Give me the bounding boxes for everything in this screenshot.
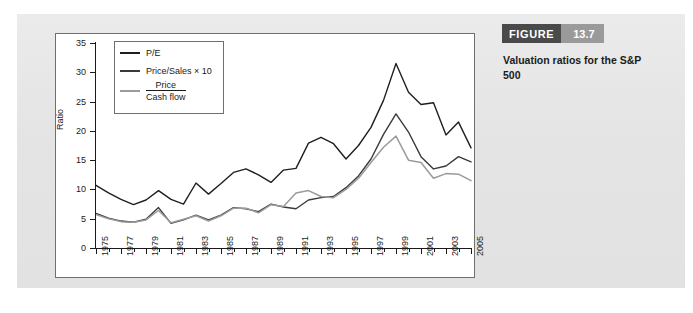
x-tick [446,249,447,254]
x-tick [396,249,397,254]
figure-caption: Valuation ratios for the S&P 500 [503,53,653,83]
y-tick-label: 35 [56,39,86,48]
x-tick-label: 1995 [350,236,360,256]
x-tick-label: 1977 [125,236,135,256]
y-tick-label: 30 [56,68,86,77]
x-tick-label: 1979 [150,236,160,256]
y-tick-label: 25 [56,97,86,106]
y-tick-label: 15 [56,156,86,165]
x-tick-label: 1975 [100,236,110,256]
x-tick [271,249,272,254]
y-tick [90,43,95,44]
figure-badge: FIGURE 13.7 [502,24,604,43]
x-tick [96,249,97,254]
legend-fraction-numerator: Price [146,80,186,91]
y-axis-line [95,42,96,249]
y-tick [90,189,95,190]
y-tick [90,219,95,220]
x-tick-label: 2001 [425,236,435,256]
x-tick [121,249,122,254]
legend-item-price-sales: Price/Sales × 10 [120,64,212,78]
x-tick-label: 1989 [275,236,285,256]
x-tick [421,249,422,254]
chart-legend: P/E Price/Sales × 10 Price Cash flow [114,41,224,114]
y-tick-label: 5 [56,214,86,223]
x-tick [146,249,147,254]
x-tick-label: 2003 [450,236,460,256]
y-tick-label: 20 [56,126,86,135]
figure-badge-number: 13.7 [561,24,603,43]
x-tick [296,249,297,254]
legend-item-pe: P/E [120,46,161,60]
chart-card: Ratio 0510152025303519751977197919811983… [55,33,475,278]
x-tick [471,249,472,254]
legend-label-pe: P/E [146,48,161,58]
x-tick-label: 1983 [200,236,210,256]
x-tick-label: 1981 [175,236,185,256]
legend-swatch-pe [120,52,140,54]
x-tick [246,249,247,254]
y-tick-label: 0 [56,244,86,253]
legend-fraction-denominator: Cash flow [146,91,186,102]
x-tick-label: 1987 [250,236,260,256]
x-tick-label: 1993 [325,236,335,256]
legend-label-price-sales: Price/Sales × 10 [146,66,212,76]
legend-swatch-price-cashflow [120,90,140,92]
y-tick [90,102,95,103]
legend-fraction: Price Cash flow [146,80,186,102]
legend-swatch-price-sales [120,70,140,72]
x-tick [346,249,347,254]
legend-item-price-cashflow: Price Cash flow [120,84,186,98]
x-tick-label: 1991 [300,236,310,256]
y-tick [90,72,95,73]
y-tick [90,160,95,161]
x-tick-label: 2005 [475,236,485,256]
x-tick [321,249,322,254]
x-tick [171,249,172,254]
x-tick [221,249,222,254]
x-tick-label: 1997 [375,236,385,256]
y-tick [90,131,95,132]
y-tick-label: 10 [56,185,86,194]
x-tick-label: 1999 [400,236,410,256]
figure-container: Ratio 0510152025303519751977197919811983… [0,0,693,313]
series-line-price-cash-flow [96,136,471,223]
figure-badge-word: FIGURE [502,24,561,43]
y-tick [90,248,95,249]
x-tick [371,249,372,254]
x-tick [196,249,197,254]
x-tick-label: 1985 [225,236,235,256]
